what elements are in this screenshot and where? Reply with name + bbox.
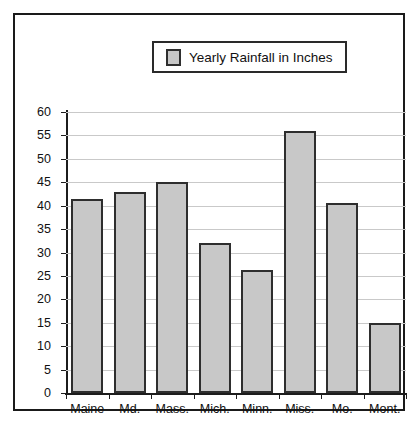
y-axis-tick-label: 60 bbox=[15, 105, 51, 119]
legend-swatch-icon bbox=[166, 49, 181, 66]
y-axis-tick-label: 0 bbox=[15, 386, 51, 400]
x-axis-tick-label: Md. bbox=[119, 402, 140, 416]
y-axis-tick-label: 5 bbox=[15, 363, 51, 377]
y-axis-tick-label: 30 bbox=[15, 246, 51, 260]
y-axis-tick-label: 20 bbox=[15, 292, 51, 306]
x-axis-tick-mark bbox=[109, 393, 110, 399]
bar bbox=[199, 243, 231, 393]
x-axis-tick-mark bbox=[194, 393, 195, 399]
y-axis-tick-label: 50 bbox=[15, 152, 51, 166]
y-axis-tick-label: 45 bbox=[15, 175, 51, 189]
y-axis-tick-label: 55 bbox=[15, 128, 51, 142]
y-axis-tick-label: 10 bbox=[15, 339, 51, 353]
bar bbox=[114, 192, 146, 393]
legend-label: Yearly Rainfall in Inches bbox=[189, 50, 333, 65]
y-axis-tick-label: 40 bbox=[15, 199, 51, 213]
y-axis-tick-label: 15 bbox=[15, 316, 51, 330]
x-axis-tick-mark bbox=[321, 393, 322, 399]
x-axis-tick-label: Minn. bbox=[242, 402, 273, 416]
x-axis-tick-mark bbox=[279, 393, 280, 399]
bar bbox=[241, 270, 273, 393]
chart-frame: Yearly Rainfall in Inches 05101520253035… bbox=[13, 13, 405, 411]
x-axis-tick-label: Mont. bbox=[369, 402, 400, 416]
x-axis-tick-label: Mo. bbox=[332, 402, 353, 416]
bar bbox=[326, 203, 358, 393]
bar bbox=[156, 182, 188, 393]
y-axis-tick-label: 35 bbox=[15, 222, 51, 236]
x-axis-tick-mark bbox=[151, 393, 152, 399]
x-axis-tick-mark bbox=[66, 393, 67, 399]
bar-series bbox=[66, 112, 406, 393]
bar bbox=[71, 199, 103, 393]
y-axis-tick-label: 25 bbox=[15, 269, 51, 283]
x-axis-tick-mark bbox=[406, 393, 407, 399]
bar bbox=[369, 323, 401, 393]
bar bbox=[284, 131, 316, 393]
x-axis-tick-mark bbox=[236, 393, 237, 399]
x-axis-tick-label: Maine bbox=[70, 402, 104, 416]
x-axis-tick-label: Mich. bbox=[200, 402, 230, 416]
chart-legend: Yearly Rainfall in Inches bbox=[152, 41, 347, 73]
x-axis-tick-label: Mass. bbox=[156, 402, 189, 416]
x-axis-tick-mark bbox=[364, 393, 365, 399]
plot-area bbox=[66, 112, 406, 393]
x-axis-tick-label: Miss. bbox=[285, 402, 314, 416]
